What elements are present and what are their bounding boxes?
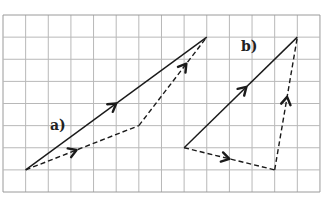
vector-diagram: a) b) <box>0 0 332 204</box>
arrowhead-icon <box>68 148 77 157</box>
label-b: b) <box>241 38 257 54</box>
arrowhead-icon <box>221 152 230 161</box>
arrowhead-icon <box>178 64 186 73</box>
label-a: a) <box>50 117 66 133</box>
arrowhead-icon <box>107 104 116 112</box>
grid <box>3 15 320 192</box>
